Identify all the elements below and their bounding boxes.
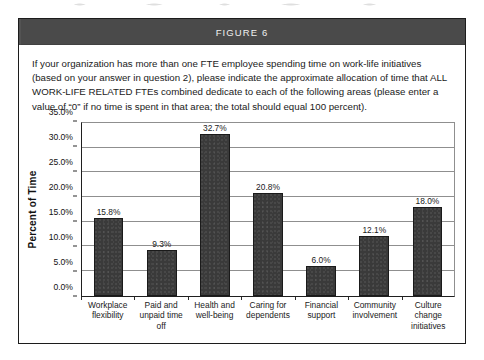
- x-axis-tick-mark: [81, 297, 82, 300]
- y-axis-tick-mark: [73, 270, 77, 271]
- y-axis-tick-mark: [73, 245, 77, 246]
- bar-slot: 9.3%: [135, 123, 188, 296]
- bar-value-label: 9.3%: [152, 239, 171, 249]
- y-axis-tick-mark: [73, 195, 77, 196]
- figure-header-label: FIGURE 6: [216, 27, 269, 38]
- y-axis-tick-label: 25.0%: [49, 157, 73, 167]
- y-axis-tick-label: 10.0%: [49, 232, 73, 242]
- x-axis-category-label: Caring for dependents: [241, 300, 294, 332]
- y-axis-tick-mark: [73, 220, 77, 221]
- x-axis-category-label: Health and well-being: [188, 300, 241, 332]
- y-axis-tick-label: 30.0%: [49, 132, 73, 142]
- bar[interactable]: 20.8%: [253, 193, 283, 296]
- bar-chart: Percent of Time 0.0%5.0%10.0%15.0%20.0%2…: [25, 122, 455, 335]
- bar-slot: 15.8%: [82, 123, 135, 296]
- figure-header-bar: FIGURE 6: [19, 19, 465, 45]
- x-axis-tick-mark: [348, 297, 349, 300]
- bar-slot: 6.0%: [295, 123, 348, 296]
- bar[interactable]: 18.0%: [413, 207, 443, 296]
- x-axis-category-label: Paid and unpaid time off: [134, 300, 187, 332]
- x-axis-tick-mark: [134, 297, 135, 300]
- bar-slot: 20.8%: [241, 123, 294, 296]
- x-axis-labels: Workplace flexibilityPaid and unpaid tim…: [81, 300, 455, 332]
- y-axis-tick-label: 0.0%: [53, 282, 73, 292]
- y-axis-tick-label: 5.0%: [53, 257, 73, 267]
- x-axis-category-label: Community involvement: [348, 300, 401, 332]
- y-axis-tick-label: 15.0%: [49, 207, 73, 217]
- y-axis-title-label: Percent of Time: [28, 170, 39, 248]
- y-axis-ticks: 0.0%5.0%10.0%15.0%20.0%25.0%30.0%35.0%: [39, 122, 77, 297]
- bar-value-label: 6.0%: [312, 255, 331, 265]
- y-axis-tick-label: 20.0%: [49, 182, 73, 192]
- plot-area: 15.8%9.3%32.7%20.8%6.0%12.1%18.0%: [81, 122, 455, 297]
- x-axis-tick-mark: [188, 297, 189, 300]
- bar-slot: 12.1%: [348, 123, 401, 296]
- bar-slot: 32.7%: [188, 123, 241, 296]
- scan-artifact: [30, 2, 444, 7]
- x-axis-tick-mark: [241, 297, 242, 300]
- bar-value-label: 15.8%: [97, 207, 121, 217]
- y-axis-tick-mark: [73, 145, 77, 146]
- y-axis-tick-mark: [73, 170, 77, 171]
- bar[interactable]: 15.8%: [94, 218, 124, 296]
- y-axis-tick-mark: [73, 120, 77, 121]
- y-axis-tick-mark: [73, 295, 77, 296]
- bar-series: 15.8%9.3%32.7%20.8%6.0%12.1%18.0%: [82, 123, 454, 296]
- bar-slot: 18.0%: [401, 123, 454, 296]
- bar[interactable]: 6.0%: [306, 266, 336, 296]
- bar[interactable]: 9.3%: [147, 250, 177, 296]
- x-axis-category-label: Workplace flexibility: [81, 300, 134, 332]
- x-axis-category-label: Financial support: [295, 300, 348, 332]
- x-axis-category-label: Culture change initiatives: [402, 300, 455, 332]
- y-axis-tick-label: 35.0%: [49, 107, 73, 117]
- bar-value-label: 12.1%: [362, 225, 386, 235]
- figure-intro-text: If your organization has more than one F…: [19, 45, 465, 120]
- bar-value-label: 20.8%: [256, 182, 280, 192]
- bar[interactable]: 12.1%: [359, 236, 389, 296]
- x-axis-tick-mark: [295, 297, 296, 300]
- x-axis-tick-mark: [402, 297, 403, 300]
- bar-value-label: 32.7%: [203, 123, 227, 133]
- figure-panel: FIGURE 6 If your organization has more t…: [18, 18, 466, 344]
- bar[interactable]: 32.7%: [200, 134, 230, 296]
- bar-value-label: 18.0%: [416, 196, 440, 206]
